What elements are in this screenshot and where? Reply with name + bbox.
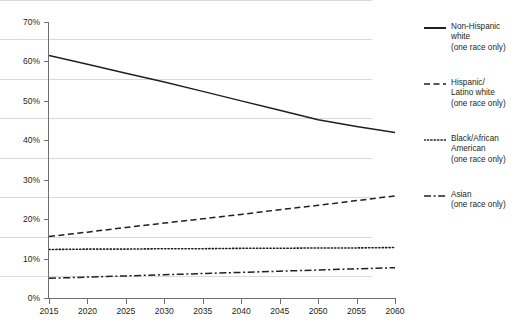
y-axis-tick-label: 50% (0, 96, 40, 106)
x-axis-tick (395, 299, 396, 304)
y-axis-tick-label: 30% (0, 175, 40, 185)
x-axis-tick-label: 2025 (116, 306, 135, 316)
x-axis-tick-label: 2055 (347, 306, 366, 316)
y-axis-tick-label: 20% (0, 214, 40, 224)
legend-line-swatch-solid-icon (424, 22, 446, 33)
x-axis-tick-label: 2045 (270, 306, 289, 316)
y-axis-tick-label: 70% (0, 17, 40, 27)
y-axis-tick-label: 10% (0, 254, 40, 264)
legend-line-swatch-dotted-icon (424, 134, 446, 145)
legend-item[interactable]: Non-Hispanic white (one race only) (424, 22, 529, 53)
legend-item-label: Black/African American (one race only) (451, 134, 506, 165)
legend-item[interactable]: Hispanic/ Latino white (one race only) (424, 78, 529, 109)
y-axis-tick-label: 60% (0, 56, 40, 66)
series-line (49, 268, 395, 279)
x-axis-tick (126, 299, 127, 304)
plot-area (49, 22, 395, 298)
legend-item-label: Non-Hispanic white (one race only) (451, 22, 506, 53)
x-axis-tick-label: 2040 (232, 306, 251, 316)
x-axis-tick (318, 299, 319, 304)
x-axis-tick-label: 2030 (155, 306, 174, 316)
x-axis-tick-label: 2050 (309, 306, 328, 316)
series-line (49, 196, 395, 237)
x-axis-tick-label: 2035 (193, 306, 212, 316)
x-axis-tick (49, 299, 50, 304)
x-axis-line (48, 298, 396, 299)
y-axis-tick-label: 40% (0, 135, 40, 145)
x-axis-tick (241, 299, 242, 304)
chart-figure: 0%10%20%30%40%50%60%70% 2015202020252030… (0, 0, 529, 326)
legend-item[interactable]: Asian (one race only) (424, 190, 529, 211)
y-axis-labels: 0%10%20%30%40%50%60%70% (0, 0, 42, 326)
x-axis-tick (280, 299, 281, 304)
legend-line-swatch-dashdot-icon (424, 190, 446, 201)
legend-item-label: Hispanic/ Latino white (one race only) (451, 78, 506, 109)
x-axis-tick (164, 299, 165, 304)
legend-item-label: Asian (one race only) (451, 190, 506, 211)
legend-item[interactable]: Black/African American (one race only) (424, 134, 529, 165)
x-axis-tick-label: 2060 (386, 306, 405, 316)
x-axis-tick (87, 299, 88, 304)
series-lines (49, 22, 395, 298)
x-axis-tick-label: 2015 (40, 306, 59, 316)
gridline (0, 0, 372, 1)
x-axis-tick-label: 2020 (78, 306, 97, 316)
legend-line-swatch-dashed-icon (424, 78, 446, 89)
series-line (49, 56, 395, 133)
y-axis-tick-label: 0% (0, 293, 40, 303)
x-axis-tick (203, 299, 204, 304)
series-line (49, 248, 395, 250)
x-axis-tick (357, 299, 358, 304)
